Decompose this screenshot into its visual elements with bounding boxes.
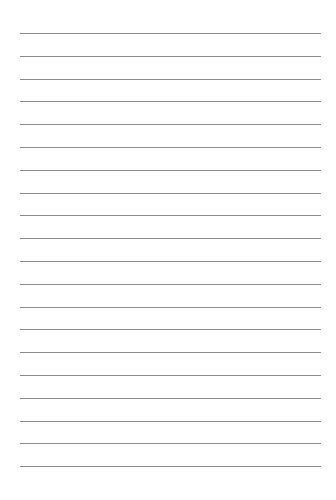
ruled-line xyxy=(20,79,321,80)
ruled-line xyxy=(20,284,321,285)
ruled-line xyxy=(20,56,321,57)
ruled-line xyxy=(20,375,321,376)
ruled-line xyxy=(20,170,321,171)
ruled-line xyxy=(20,307,321,308)
ruled-line xyxy=(20,193,321,194)
ruled-line xyxy=(20,238,321,239)
lined-paper-page xyxy=(0,0,336,500)
ruled-line xyxy=(20,421,321,422)
ruled-line xyxy=(20,215,321,216)
ruled-line xyxy=(20,398,321,399)
ruled-line xyxy=(20,466,321,467)
ruled-line xyxy=(20,261,321,262)
ruled-line xyxy=(20,147,321,148)
ruled-line xyxy=(20,101,321,102)
ruled-line xyxy=(20,352,321,353)
ruled-line xyxy=(20,33,321,34)
ruled-line xyxy=(20,443,321,444)
ruled-line xyxy=(20,124,321,125)
ruled-line xyxy=(20,329,321,330)
